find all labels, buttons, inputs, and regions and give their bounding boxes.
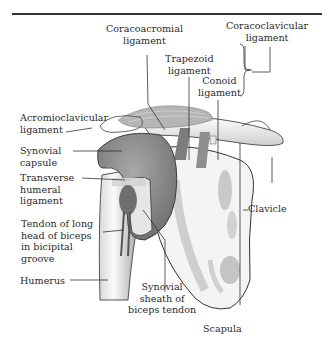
label-synovial-capsule: Synovial capsule [20, 145, 61, 168]
label-humerus: Humerus [20, 275, 65, 287]
label-tendon-long-head-biceps: Tendon of long head of biceps in bicipit… [21, 218, 93, 264]
label-coracoacromial-ligament: Coracoacromial ligament [106, 23, 183, 46]
label-conoid-ligament: Conoid ligament [198, 75, 241, 98]
label-synovial-sheath-biceps-tendon: Synovial sheath of biceps tendon [128, 281, 196, 316]
label-trapezoid-ligament: Trapezoid ligament [165, 53, 214, 76]
label-clavicle: Clavicle [248, 203, 287, 215]
label-transverse-humeral-ligament: Transverse humeral ligament [20, 172, 74, 207]
label-scapula: Scapula [203, 323, 242, 335]
label-acromioclavicular-ligament: Acromioclavicular ligament [20, 112, 108, 135]
label-coracoclavicular-ligament: Coracoclavicular ligament [226, 20, 308, 43]
